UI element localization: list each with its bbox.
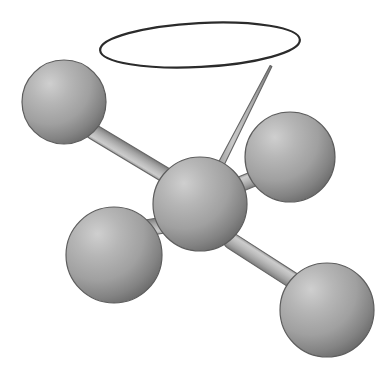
lower-right-atom — [280, 263, 374, 357]
central-atom — [153, 157, 247, 251]
lower-left-atom — [66, 207, 162, 303]
upper-left-atom — [22, 60, 106, 144]
molecule-canvas — [0, 0, 391, 371]
molecule-figure: Ball-and-stick molecular model with lone… — [0, 0, 391, 371]
right-atom — [245, 112, 335, 202]
